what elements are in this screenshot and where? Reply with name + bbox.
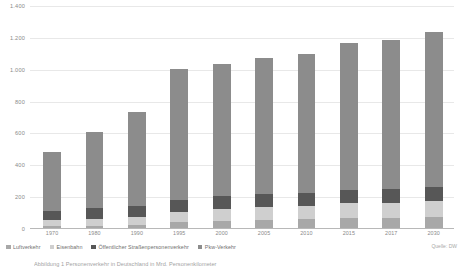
legend-label: Eisenbahn (57, 244, 83, 250)
y-axis-tick-label: 600 (15, 130, 25, 136)
y-axis-tick-label: 1.000 (10, 67, 25, 73)
legend-label: Pkw-Verkehr (205, 244, 236, 250)
bar-stack[interactable] (170, 69, 188, 228)
bar-segment[interactable] (382, 40, 400, 189)
bar-segment[interactable] (382, 203, 400, 218)
bar-series-group (30, 6, 454, 229)
x-axis-tick-label: 2015 (343, 230, 355, 236)
bar-segment[interactable] (298, 193, 316, 206)
bar-stack[interactable] (340, 43, 358, 228)
bar-stack[interactable] (43, 152, 61, 228)
y-axis-tick-label: 0 (22, 226, 25, 232)
bar-segment[interactable] (425, 201, 443, 217)
x-axis-tick-label: 1970 (46, 230, 58, 236)
bar-segment[interactable] (128, 206, 146, 217)
x-axis-tick-label: 2030 (427, 230, 439, 236)
legend-item[interactable]: Öffentlicher Straßenpersonenverkehr (91, 244, 188, 250)
bar-segment[interactable] (170, 212, 188, 222)
legend-swatch-icon (6, 245, 11, 250)
chart-legend: LuftverkehrEisenbahnÖffentlicher Straßen… (6, 244, 236, 250)
legend-item[interactable]: Pkw-Verkehr (198, 244, 236, 250)
bar-segment[interactable] (425, 32, 443, 187)
legend-label: Luftverkehr (13, 244, 41, 250)
bar-segment[interactable] (340, 190, 358, 204)
bar-segment[interactable] (425, 217, 443, 228)
bar-segment[interactable] (170, 200, 188, 212)
bar-segment[interactable] (170, 222, 188, 228)
bar-stack[interactable] (255, 58, 273, 228)
legend-swatch-icon (91, 245, 96, 250)
x-axis-tick-label: 2000 (215, 230, 227, 236)
bar-segment[interactable] (86, 132, 104, 208)
bar-segment[interactable] (213, 209, 231, 221)
bar-segment[interactable] (170, 69, 188, 200)
x-axis-tick-label: 1995 (173, 230, 185, 236)
bar-stack[interactable] (86, 132, 104, 228)
bar-segment[interactable] (86, 226, 104, 228)
bar-segment[interactable] (43, 152, 61, 211)
bar-stack[interactable] (425, 32, 443, 228)
bar-stack[interactable] (128, 112, 146, 228)
y-axis-tick-label: 200 (15, 194, 25, 200)
y-axis-labels: 02004006008001.0001.2001.400 (0, 6, 28, 229)
bar-segment[interactable] (340, 43, 358, 190)
bar-segment[interactable] (298, 219, 316, 228)
bar-segment[interactable] (43, 226, 61, 228)
x-axis-tick-label: 2005 (258, 230, 270, 236)
bar-segment[interactable] (298, 206, 316, 219)
chart-container: 02004006008001.0001.2001.400 19701980199… (0, 0, 462, 271)
y-axis-tick-label: 1.200 (10, 35, 25, 41)
bar-segment[interactable] (255, 58, 273, 194)
legend-item[interactable]: Luftverkehr (6, 244, 41, 250)
bar-segment[interactable] (128, 217, 146, 224)
x-axis-tick-label: 2010 (300, 230, 312, 236)
legend-label: Öffentlicher Straßenpersonenverkehr (98, 244, 188, 250)
figure-caption: Abbildung 1 Personenverkehr in Deutschla… (34, 261, 217, 267)
legend-item[interactable]: Eisenbahn (50, 244, 83, 250)
bar-segment[interactable] (213, 221, 231, 228)
bar-stack[interactable] (382, 40, 400, 228)
x-axis-labels: 1970198019901995200020052010201520172030 (30, 230, 454, 242)
bar-segment[interactable] (255, 207, 273, 219)
y-axis-tick-label: 400 (15, 162, 25, 168)
bar-segment[interactable] (86, 208, 104, 219)
bar-segment[interactable] (86, 219, 104, 226)
bar-segment[interactable] (213, 64, 231, 197)
bar-segment[interactable] (382, 189, 400, 203)
legend-swatch-icon (50, 245, 55, 250)
bar-segment[interactable] (340, 218, 358, 228)
bar-segment[interactable] (213, 196, 231, 209)
plot-area (30, 6, 454, 229)
bar-segment[interactable] (425, 187, 443, 201)
y-axis-tick-label: 1.400 (10, 3, 25, 9)
bar-stack[interactable] (298, 54, 316, 228)
x-axis-tick-label: 1990 (131, 230, 143, 236)
bar-segment[interactable] (255, 194, 273, 207)
bar-segment[interactable] (255, 220, 273, 228)
bar-segment[interactable] (340, 203, 358, 218)
source-note: Quelle: DW (431, 243, 457, 249)
x-axis-tick-label: 2017 (385, 230, 397, 236)
bar-stack[interactable] (213, 64, 231, 228)
bar-segment[interactable] (128, 112, 146, 206)
bar-segment[interactable] (382, 218, 400, 228)
y-axis-tick-label: 800 (15, 99, 25, 105)
bar-segment[interactable] (43, 211, 61, 221)
x-axis-tick-label: 1980 (88, 230, 100, 236)
bar-segment[interactable] (128, 225, 146, 229)
bar-segment[interactable] (298, 54, 316, 192)
legend-swatch-icon (198, 245, 203, 250)
